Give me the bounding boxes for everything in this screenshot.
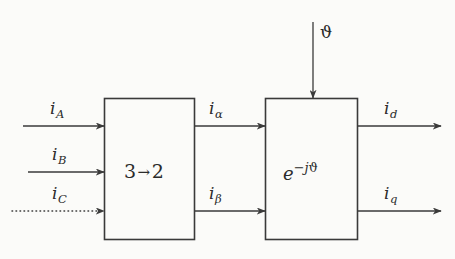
block-rotation-exponent-theta: ϑ xyxy=(309,160,318,175)
signal-ialpha-label: iα xyxy=(209,100,223,120)
block-rotation-label: e−jϑ xyxy=(283,162,318,183)
input-ic-subscript: C xyxy=(58,192,67,206)
signal-ibeta-symbol: i xyxy=(209,183,214,203)
block-rotation-base: e xyxy=(283,163,294,184)
signal-ibeta-subscript: β xyxy=(215,192,222,206)
input-ib-label: iB xyxy=(52,146,66,166)
signal-ialpha-subscript: α xyxy=(215,107,223,121)
signal-ialpha-symbol: i xyxy=(209,98,214,118)
right-arrow-icon: → xyxy=(138,163,151,181)
block-3to2-label: 3→2 xyxy=(124,162,164,181)
control-theta-symbol: ϑ xyxy=(320,22,332,42)
input-ib-symbol: i xyxy=(52,144,57,164)
input-ic-symbol: i xyxy=(52,183,57,203)
diagram-lines xyxy=(0,0,455,259)
input-ia-symbol: i xyxy=(50,98,55,118)
input-ia-label: iA xyxy=(50,100,64,120)
block-3to2-output-count: 2 xyxy=(152,160,165,182)
signal-ibeta-label: iβ xyxy=(209,185,222,205)
input-ic-label: iC xyxy=(52,185,67,205)
control-theta-label: ϑ xyxy=(320,24,332,41)
output-iq-label: iq xyxy=(384,185,397,205)
block-rotation-exponent-sign: − xyxy=(294,160,305,175)
output-iq-subscript: q xyxy=(390,192,397,206)
output-id-label: id xyxy=(384,100,397,120)
block-3to2-input-count: 3 xyxy=(124,160,137,182)
output-id-symbol: i xyxy=(384,98,389,118)
input-ia-subscript: A xyxy=(56,107,64,121)
output-id-subscript: d xyxy=(390,107,397,121)
diagram-canvas: iA iB iC iα iβ ϑ id iq 3→2 e−jϑ xyxy=(0,0,455,259)
output-iq-symbol: i xyxy=(384,183,389,203)
input-ib-subscript: B xyxy=(58,153,67,167)
block-rotation-exponent: −jϑ xyxy=(294,160,318,175)
